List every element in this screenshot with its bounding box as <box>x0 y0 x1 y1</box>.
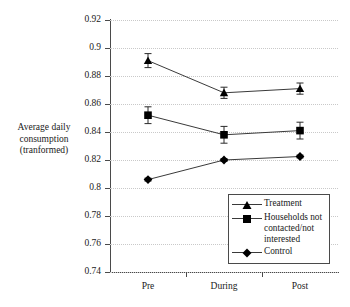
triangle-icon <box>232 199 262 211</box>
data-point-square <box>296 127 304 135</box>
data-point-diamond <box>220 156 229 165</box>
data-point-diamond <box>296 152 305 161</box>
series-diamond <box>144 152 305 184</box>
legend-item-treatment: Treatment <box>232 198 325 211</box>
legend-label-households: Households not contacted/not interested <box>262 212 325 245</box>
data-point-diamond <box>144 175 153 184</box>
legend-item-households: Households not contacted/not interested <box>232 212 325 245</box>
data-point-triangle <box>296 84 304 92</box>
chart-figure: Average daily consumption (tranformed) 0… <box>0 0 350 307</box>
data-point-square <box>144 111 152 119</box>
series-triangle <box>144 54 304 99</box>
data-point-square <box>220 131 228 139</box>
legend-item-control: Control <box>232 246 325 259</box>
legend-label-treatment: Treatment <box>262 198 302 209</box>
legend-label-control: Control <box>262 246 292 257</box>
series-square <box>144 107 304 143</box>
square-icon <box>232 213 262 225</box>
diamond-icon <box>232 247 262 259</box>
chart-legend: Treatment Households not contacted/not i… <box>228 194 330 264</box>
data-point-triangle <box>144 56 152 64</box>
